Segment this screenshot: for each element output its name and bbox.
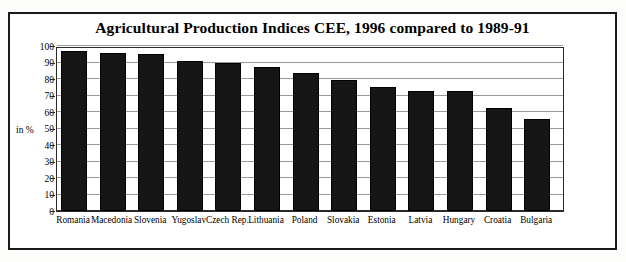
x-tick-label-bulgaria: Bulgaria (496, 214, 576, 226)
bar-czech-rep (215, 63, 241, 212)
y-tick-mark-0 (50, 211, 55, 212)
y-tick-mark-90 (50, 63, 55, 64)
y-tick-mark-20 (50, 178, 55, 179)
bar-croatia (486, 108, 512, 211)
bar-yugoslav (177, 61, 203, 211)
y-tick-label-50: 50 (28, 125, 54, 135)
y-tick-label-80: 80 (28, 76, 54, 86)
y-tick-label-40: 40 (28, 142, 54, 152)
y-tick-mark-10 (50, 195, 55, 196)
bar-lithuania (254, 67, 280, 211)
y-tick-mark-30 (50, 162, 55, 163)
scanned-page-background: Agricultural Production Indices CEE, 199… (0, 0, 626, 262)
bar-romania (61, 51, 87, 211)
y-tick-label-10: 10 (28, 191, 54, 201)
y-tick-mark-60 (50, 112, 55, 113)
y-tick-mark-70 (50, 96, 55, 97)
y-tick-label-100: 100 (28, 43, 54, 53)
bar-macedonia (100, 53, 126, 211)
bar-slovenia (138, 54, 164, 211)
y-tick-mark-50 (50, 129, 55, 130)
bar-slovakia (331, 80, 357, 211)
gridline-100 (57, 45, 563, 46)
y-tick-label-30: 30 (28, 158, 54, 168)
y-axis-tick-labels: 0102030405060708090100 (20, 47, 54, 212)
chart-figure-frame: Agricultural Production Indices CEE, 199… (8, 12, 617, 250)
chart-title: Agricultural Production Indices CEE, 199… (10, 19, 615, 37)
y-tick-mark-80 (50, 79, 55, 80)
gridline-90 (57, 62, 563, 63)
bar-poland (293, 73, 319, 211)
bar-hungary (447, 91, 473, 211)
bar-bulgaria (524, 119, 550, 211)
bar-estonia (370, 87, 396, 211)
y-tick-label-70: 70 (28, 92, 54, 102)
y-tick-label-60: 60 (28, 109, 54, 119)
x-axis-tick-labels: RomaniaMacedoniaSloveniaYugoslavCzech Re… (56, 214, 564, 230)
y-tick-mark-100 (50, 46, 55, 47)
y-tick-label-20: 20 (28, 175, 54, 185)
plot-area (56, 47, 564, 212)
y-tick-mark-40 (50, 145, 55, 146)
y-tick-label-90: 90 (28, 59, 54, 69)
bar-latvia (408, 91, 434, 211)
